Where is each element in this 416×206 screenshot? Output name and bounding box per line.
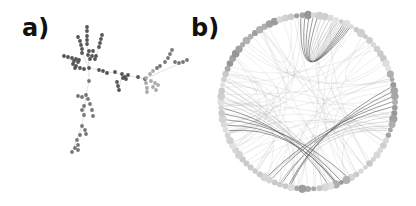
graph-edge [316,21,363,166]
ring-node [298,185,306,193]
ring-node [223,127,229,133]
ring-node [221,77,227,83]
ring-node [391,93,399,101]
ring-node [311,186,316,191]
ring-node [392,105,398,111]
ring-node [287,184,294,191]
ring-node [257,171,263,177]
ring-node [358,168,363,173]
ring-node [316,185,322,191]
ring-node [333,17,338,22]
ring-node [343,176,351,184]
ring-node [277,181,283,187]
panel-b-ring-nodes [217,11,398,193]
ring-node [218,105,224,111]
ring-node [283,183,289,189]
ring-node [321,13,328,20]
ring-node [386,133,391,138]
panel-b-edges [224,18,392,186]
ring-node [389,121,396,128]
ring-node [387,70,394,77]
ring-node [220,83,225,88]
graph-edge [267,116,390,175]
ring-node [390,77,395,82]
ring-node [349,24,354,29]
ring-node [288,13,294,19]
ring-node [327,15,333,21]
ring-node [294,186,299,191]
ring-node [366,160,373,167]
graph-edge [224,22,294,107]
ring-node [225,132,231,138]
ring-node [218,110,225,117]
ring-node [363,165,368,170]
ring-node [252,168,257,173]
ring-node [388,127,393,132]
panel-b-circular-graph [0,0,416,206]
ring-node [282,14,289,21]
ring-node [219,87,225,93]
ring-node [222,71,228,77]
ring-node [294,13,299,18]
